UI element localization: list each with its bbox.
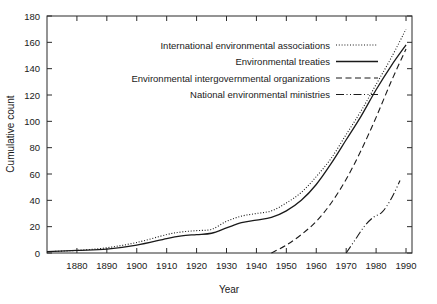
legend-label-2: Environmental intergovernmental organiza… (131, 73, 330, 84)
x-tick-label: 1890 (96, 260, 117, 271)
y-tick-label: 80 (29, 142, 40, 153)
y-tick-label: 140 (24, 63, 40, 74)
y-tick-label: 160 (24, 37, 40, 48)
series-line-3 (346, 181, 400, 253)
y-tick-label: 180 (24, 11, 40, 22)
cumulative-count-line-chart: 1880189019001910192019301940195019601970… (0, 0, 437, 304)
legend-label-3: National environmental ministries (190, 89, 330, 100)
y-tick-label: 120 (24, 90, 40, 101)
y-axis-title: Cumulative count (5, 95, 16, 172)
x-tick-label: 1900 (126, 260, 147, 271)
legend-label-1: Environmental treaties (235, 56, 330, 67)
y-tick-label: 20 (29, 221, 40, 232)
series-lines (47, 29, 406, 253)
x-tick-label: 1950 (276, 260, 297, 271)
x-tick-label: 1940 (246, 260, 267, 271)
x-tick-label: 1970 (336, 260, 357, 271)
x-tick-label: 1920 (186, 260, 207, 271)
y-tick-label: 40 (29, 195, 40, 206)
chart-container: 1880189019001910192019301940195019601970… (0, 0, 437, 304)
y-tick-label: 60 (29, 169, 40, 180)
x-tick-label: 1990 (395, 260, 416, 271)
plot-border (47, 16, 412, 253)
y-tick-label: 0 (35, 248, 40, 259)
x-tick-label: 1930 (216, 260, 237, 271)
chart-legend: International environmental associations… (131, 40, 378, 101)
x-tick-label: 1910 (156, 260, 177, 271)
y-tick-label: 100 (24, 116, 40, 127)
x-tick-label: 1880 (66, 260, 87, 271)
plot-frame (47, 16, 412, 253)
x-axis-title: Year (219, 284, 240, 295)
x-tick-label: 1960 (306, 260, 327, 271)
x-tick-label: 1980 (366, 260, 387, 271)
series-line-0 (47, 29, 406, 252)
legend-label-0: International environmental associations (160, 40, 330, 51)
